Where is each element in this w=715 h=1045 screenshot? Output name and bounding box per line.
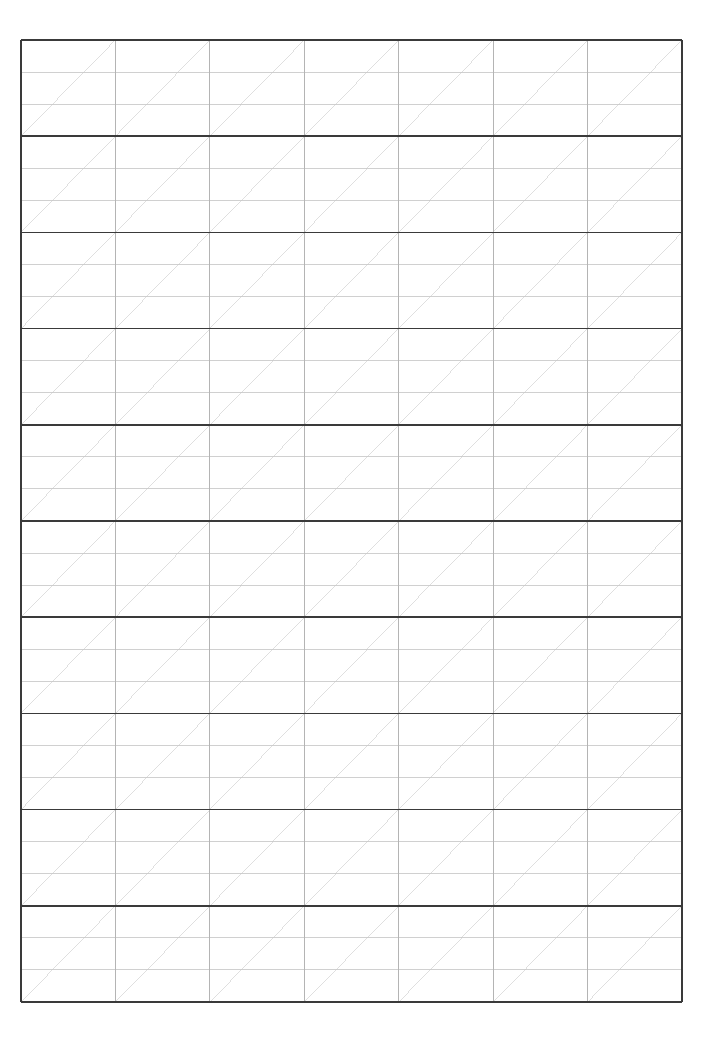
practice-grid-sheet <box>0 0 715 1045</box>
grid-canvas <box>0 0 715 1045</box>
page-background <box>0 0 715 1045</box>
